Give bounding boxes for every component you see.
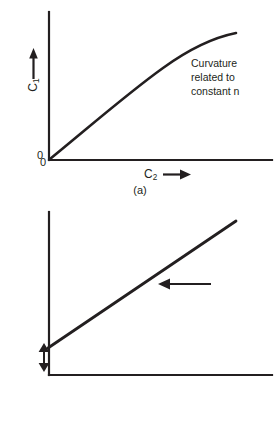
panel-a-origin-label-lower: 0 (40, 156, 46, 169)
panel-b-slope-arrow-icon (158, 279, 211, 290)
panel-a-plot (0, 0, 280, 210)
panel-a-x-axis-label-subscript: 2 (153, 173, 158, 182)
panel-a-x-axis-label-text: C (144, 167, 153, 181)
panel-a-y-axis-label-subscript: 1 (32, 78, 41, 83)
panel-a-y-axis-label-text: C (26, 83, 40, 92)
figure-panel-a: C1 C2 0 0 Curvature related to constant … (0, 0, 280, 210)
panel-a-curvature-annotation: Curvature related to constant n (191, 56, 239, 99)
panel-b-plot (0, 200, 280, 421)
panel-a-y-axis-label: C1 (26, 72, 40, 98)
figure-panel-b: Log C1 Log C2 Log k Slope = n 0 0 (b) (0, 200, 280, 421)
panel-a-x-axis-arrow-icon (163, 170, 191, 180)
panel-a-caption: (a) (0, 184, 280, 197)
panel-a-x-axis-label: C2 (144, 167, 157, 181)
